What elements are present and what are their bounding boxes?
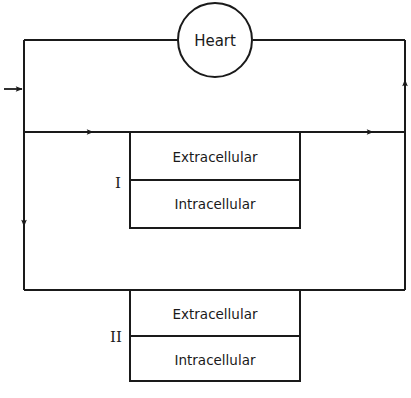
compartment-II-roman-label: II bbox=[110, 328, 122, 346]
compartment-II-upper-label: Extracellular bbox=[173, 306, 258, 322]
compartment-I-upper-label: Extracellular bbox=[173, 149, 258, 165]
flow-diagram: Heart I Extracellular Intracellular II E… bbox=[0, 0, 411, 398]
heart-label: Heart bbox=[194, 32, 236, 50]
compartment-I-roman-label: I bbox=[115, 174, 121, 192]
compartment-II-lower-label: Intracellular bbox=[174, 352, 255, 368]
compartment-I-lower-label: Intracellular bbox=[174, 196, 255, 212]
